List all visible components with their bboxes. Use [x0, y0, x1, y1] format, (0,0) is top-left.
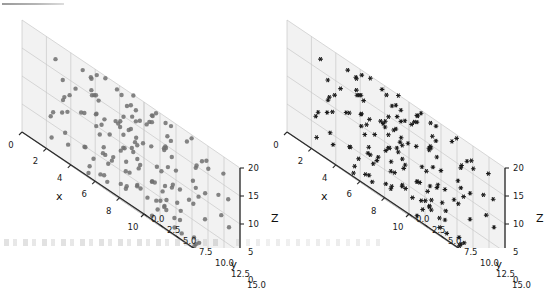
x-tick-label: 8	[371, 206, 376, 215]
data-point	[172, 216, 176, 220]
data-point	[163, 184, 167, 188]
data-point	[185, 139, 189, 143]
cropped-caption-artifact-2	[236, 239, 386, 246]
x-tick-label: 8	[106, 206, 111, 215]
data-point	[127, 170, 131, 174]
data-point	[61, 98, 65, 102]
data-point	[65, 110, 69, 114]
data-point	[131, 150, 135, 154]
data-point	[96, 98, 100, 102]
x-axis-label: x	[321, 191, 328, 202]
axes-3d-right	[265, 0, 530, 248]
z-tick-label: 20	[513, 164, 524, 173]
data-point	[119, 182, 123, 186]
data-point	[134, 119, 138, 123]
cropped-caption-artifact	[4, 239, 219, 246]
data-point	[158, 199, 162, 203]
data-point	[203, 217, 207, 221]
data-point	[155, 207, 159, 211]
data-point	[106, 162, 110, 166]
data-point	[89, 76, 93, 80]
data-point	[138, 119, 142, 123]
data-point	[121, 146, 125, 150]
data-point	[102, 145, 106, 149]
data-point	[94, 112, 98, 116]
data-point	[164, 198, 168, 202]
data-point	[124, 169, 128, 173]
x-tick-label: 10	[128, 223, 139, 232]
data-point	[141, 141, 145, 145]
data-point	[169, 139, 173, 143]
z-tick-label: 5	[513, 248, 518, 257]
x-axis-label: x	[56, 191, 63, 202]
data-point	[169, 124, 173, 128]
data-point	[115, 87, 119, 91]
data-point	[187, 197, 191, 201]
data-point	[150, 180, 154, 184]
y-tick-label: 7.5	[199, 248, 213, 257]
x-tick-label: 6	[81, 190, 86, 199]
data-point	[130, 114, 134, 118]
z-tick-label: 5	[248, 248, 253, 257]
plot-svg-left	[0, 0, 265, 248]
x-tick-label: 2	[33, 157, 38, 166]
data-point	[191, 179, 195, 183]
z-tick-label: 0	[513, 276, 518, 285]
data-point	[138, 186, 142, 190]
x-tick-label: 4	[322, 174, 327, 183]
data-point	[155, 165, 159, 169]
data-point	[103, 76, 107, 80]
z-axis-label: Z	[536, 212, 544, 223]
data-point	[216, 193, 220, 197]
data-point	[159, 169, 163, 173]
y-tick-label: 7.5	[464, 248, 478, 257]
x-tick-label: 10	[393, 223, 404, 232]
data-point	[171, 183, 175, 187]
data-point	[105, 180, 109, 184]
data-point	[194, 186, 198, 190]
data-point	[102, 173, 106, 177]
data-point	[178, 218, 182, 222]
data-point	[101, 151, 105, 155]
data-point	[144, 122, 148, 126]
data-point	[66, 142, 70, 146]
data-point	[206, 167, 210, 171]
data-point	[121, 133, 125, 137]
data-point	[107, 132, 111, 136]
z-tick-label: 15	[513, 192, 524, 201]
axes-3d-left	[0, 0, 265, 248]
data-point	[145, 195, 149, 199]
data-point	[49, 114, 53, 118]
data-point	[67, 93, 71, 97]
data-point	[149, 144, 153, 148]
data-point	[125, 104, 129, 108]
y-axis-label: y	[496, 258, 503, 269]
data-point	[89, 88, 93, 92]
data-point	[166, 165, 170, 169]
data-point	[170, 155, 174, 159]
data-point	[82, 145, 86, 149]
data-point	[94, 124, 98, 128]
z-tick-label: 0	[248, 276, 253, 285]
data-point	[194, 166, 198, 170]
data-point	[81, 68, 85, 72]
z-tick-label: 10	[513, 220, 524, 229]
data-point	[90, 93, 94, 97]
data-point	[154, 198, 158, 202]
data-point	[150, 113, 154, 117]
data-point	[226, 197, 230, 201]
y-tick-label: 2.5	[167, 226, 181, 235]
data-point	[124, 160, 128, 164]
data-point	[135, 157, 139, 161]
data-point	[118, 125, 122, 129]
data-point	[204, 158, 208, 162]
data-point	[98, 172, 102, 176]
data-point	[60, 110, 64, 114]
data-point	[160, 189, 164, 193]
z-tick-label: 15	[248, 192, 259, 201]
x-tick-label: 0	[273, 141, 278, 150]
y-axis-label: y	[231, 258, 238, 269]
data-point	[131, 93, 135, 97]
data-point	[189, 136, 193, 140]
data-point	[63, 131, 67, 135]
